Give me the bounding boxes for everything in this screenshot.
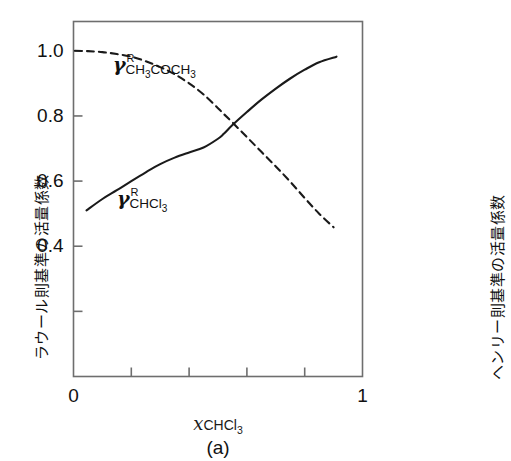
- x-variable-subscript: CHCl3: [203, 417, 242, 433]
- x-tick-label: 1: [357, 385, 368, 407]
- y-tick-label: 0.8: [20, 105, 64, 127]
- x-variable-symbol: x: [193, 413, 203, 434]
- y-axis-label-left: ラウール則基準の活量係数: [30, 174, 51, 360]
- gamma-subscript-chloroform: CHCl3: [130, 197, 168, 215]
- x-tick-label: 0: [68, 385, 79, 407]
- gamma-subscript-acetone: CH3COCH3: [126, 63, 196, 81]
- gamma-symbol-acetone: γ: [113, 53, 126, 75]
- gamma-symbol-chloroform: γ: [117, 187, 130, 209]
- y-tick-label: 1.0: [20, 40, 64, 62]
- x-axis-label: xCHCl3: [193, 413, 242, 436]
- figure-caption: (a): [206, 437, 229, 459]
- series-label-chloroform: γRCHCl3: [117, 186, 167, 214]
- y-axis-label-right: ヘンリー則基準の活量係数: [486, 194, 507, 380]
- x-axis-ticks: [131, 368, 304, 377]
- figure-container: 0.40.60.81.0 01 ラウール則基準の活量係数 ヘンリー則基準の活量係…: [0, 0, 511, 461]
- series-label-acetone: γRCH3COCH3: [113, 52, 196, 80]
- y-axis-ticks: [74, 51, 83, 312]
